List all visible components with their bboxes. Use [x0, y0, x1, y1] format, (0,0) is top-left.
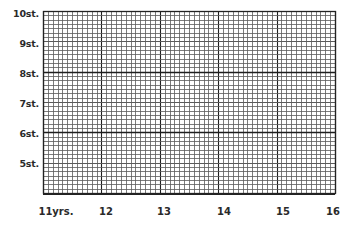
- y-label-5st: 5st.: [19, 158, 39, 169]
- chart-grid: [0, 0, 357, 229]
- y-label-8st: 8st.: [19, 68, 39, 79]
- growth-chart: 10st. 9st. 8st. 7st. 6st. 5st. 11yrs. 12…: [0, 0, 357, 229]
- x-label-15: 15: [276, 206, 290, 217]
- x-label-12: 12: [99, 206, 113, 217]
- y-label-10st: 10st.: [13, 8, 39, 19]
- x-label-11yrs: 11yrs.: [38, 206, 73, 217]
- x-label-14: 14: [217, 206, 231, 217]
- y-label-9st: 9st.: [19, 38, 39, 49]
- x-label-16: 16: [326, 206, 340, 217]
- y-label-6st: 6st.: [19, 128, 39, 139]
- y-label-7st: 7st.: [19, 98, 39, 109]
- x-label-13: 13: [157, 206, 171, 217]
